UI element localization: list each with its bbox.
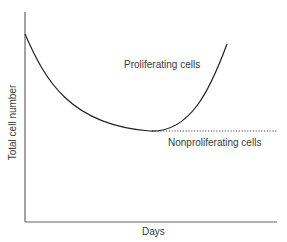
nonproliferating-cells-label: Nonproliferating cells	[168, 137, 261, 148]
proliferating-cells-curve	[25, 34, 227, 131]
x-axis-label: Days	[142, 226, 165, 237]
proliferating-cells-label: Proliferating cells	[124, 59, 200, 70]
diagram-canvas	[0, 0, 287, 242]
y-axis-label: Total cell number	[7, 78, 18, 168]
